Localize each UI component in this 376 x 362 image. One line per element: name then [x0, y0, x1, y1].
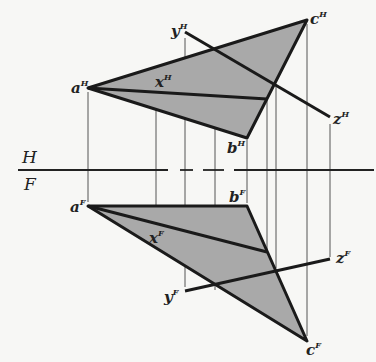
frontal-view: [88, 206, 330, 341]
horizontal-view: [88, 20, 330, 138]
label-y-h: yH: [170, 21, 188, 40]
fold-label-f: F: [23, 174, 37, 194]
label-b-f: bF: [229, 187, 247, 206]
label-z-f: zF: [335, 248, 352, 267]
label-z-h: zH: [332, 109, 350, 128]
label-c-h: cH: [310, 9, 327, 28]
fold-label-h: H: [21, 147, 38, 167]
triangle-abc-f: [88, 206, 307, 341]
label-a-h: aH: [71, 78, 89, 97]
projection-diagram: H F aH xH yH cH zH bH bF aF xF zF yF cF: [0, 0, 376, 362]
label-y-f: yF: [163, 287, 180, 306]
diagram-canvas: H F aH xH yH cH zH bH bF aF xF zF yF cF: [0, 0, 376, 362]
label-a-f: aF: [70, 197, 87, 216]
label-c-f: cF: [306, 340, 322, 359]
label-b-h: bH: [227, 138, 246, 157]
